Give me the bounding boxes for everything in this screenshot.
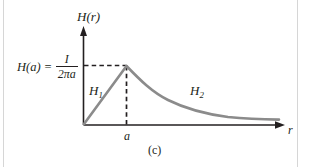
peak-value-lhs: H(a): [17, 61, 41, 74]
peak-value-equals: =: [44, 61, 53, 74]
peak-value-fraction: I 2πa: [56, 53, 78, 80]
peak-value-numerator: I: [62, 53, 72, 66]
figure-caption: (c): [148, 144, 161, 156]
x-tick-label-a: a: [124, 130, 130, 142]
curve-label-h2-subscript: 2: [199, 90, 203, 100]
y-axis-label: H(r): [77, 10, 100, 23]
peak-value-denominator: 2πa: [56, 67, 78, 80]
x-axis-arrowhead: [275, 121, 285, 128]
curve-label-h1-base: H: [89, 83, 98, 98]
figure-container: H(r) r a H1 H2 H(a) = I 2πa (c): [0, 0, 316, 167]
curve-label-h1-subscript: 1: [98, 90, 102, 100]
curve-label-h2-base: H: [190, 83, 199, 98]
curve-label-h1: H1: [89, 84, 103, 99]
plot-area: [0, 0, 316, 167]
peak-value-equation: H(a) = I 2πa: [17, 54, 78, 81]
y-axis-arrowhead: [80, 26, 87, 36]
curve-label-h2: H2: [190, 84, 204, 99]
x-axis-label: r: [288, 124, 293, 136]
